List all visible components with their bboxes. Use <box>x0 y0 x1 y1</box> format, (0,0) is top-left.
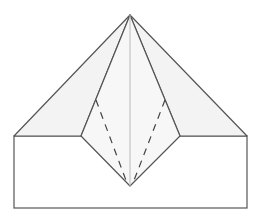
folding-diagram <box>0 0 260 218</box>
